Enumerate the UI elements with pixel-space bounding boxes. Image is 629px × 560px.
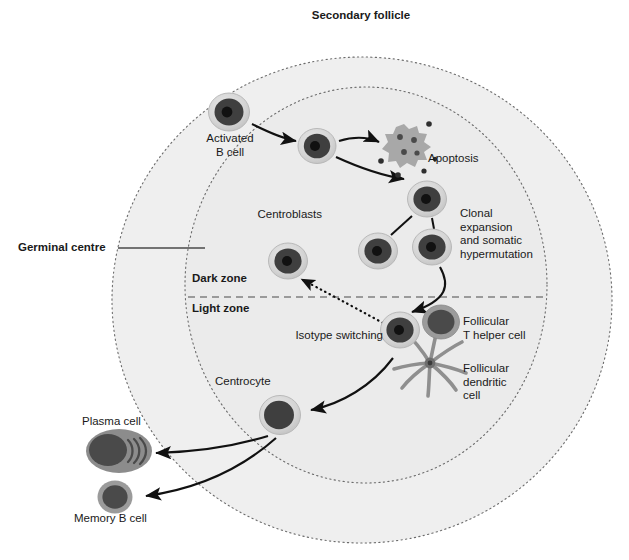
centroblasts-label: Centroblasts [236,208,322,222]
follicular-dendritic-label: Follicular dendritic cell [463,362,533,403]
memory-b-cell-label: Memory B cell [74,512,147,526]
figure-title: Secondary follicle [286,9,436,23]
dark-zone-label: Dark zone [192,272,247,286]
figure-canvas: Secondary follicle Germinal centre Dark … [0,0,629,560]
centroblast-parent [408,181,447,217]
isotype-switching-label: Isotype switching [249,329,383,343]
follicular-t-helper-label: Follicular T helper cell [463,315,549,342]
germinal-centre-label: Germinal centre [18,241,106,255]
centroblast-left [359,233,398,269]
centrocyte [260,396,301,435]
activated-b-cell [209,93,250,131]
centroblast-right [413,229,452,265]
isotype-switching-cell [381,312,420,348]
follicular-t-helper-cell [423,305,460,339]
recycled-centroblast [269,243,308,279]
apoptosis-label: Apoptosis [428,152,479,166]
light-zone-label: Light zone [192,302,250,316]
diagram-svg [0,0,629,560]
clonal-expansion-label: Clonal expansion and somatic hypermutati… [460,207,544,261]
migrating-b-cell [298,129,336,164]
plasma-cell [86,429,152,473]
plasma-cell-label: Plasma cell [82,415,141,429]
follicular-dendritic-cell-nucleus [428,361,433,366]
memory-b-cell [98,481,133,514]
activated-b-cell-label: Activated B cell [190,132,270,159]
centrocyte-label: Centrocyte [215,375,271,389]
